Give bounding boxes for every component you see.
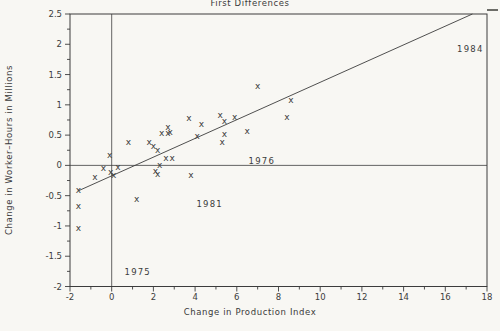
data-point-marker: x xyxy=(232,112,238,122)
x-axis-tick-label: -2 xyxy=(66,292,74,302)
y-axis-tick-label: -1 xyxy=(54,221,62,231)
data-point-marker: x xyxy=(134,194,140,204)
data-point-marker: x xyxy=(163,153,169,163)
data-point-marker: x xyxy=(107,150,113,160)
x-axis-tick-label: 18 xyxy=(482,292,493,302)
data-point-marker: x xyxy=(255,81,261,91)
chart-title: First Differences xyxy=(0,0,500,8)
year-annotation-1976: 1976 xyxy=(249,156,275,166)
regression-line xyxy=(78,14,472,191)
data-point-marker: x xyxy=(101,163,107,173)
x-axis-tick-label: 0 xyxy=(109,292,114,302)
data-point-marker: x xyxy=(155,145,161,155)
data-point-marker: x xyxy=(76,223,82,233)
scatter-plot: -2024681012141618-2-1.5-1-0.500.511.522.… xyxy=(0,0,500,331)
data-point-marker: x xyxy=(220,137,226,147)
data-point-marker: x xyxy=(199,119,205,129)
data-point-marker: x xyxy=(222,116,228,126)
x-axis-tick-label: 2 xyxy=(151,292,156,302)
chart-figure: -2024681012141618-2-1.5-1-0.500.511.522.… xyxy=(0,0,500,331)
x-axis-tick-label: 8 xyxy=(276,292,281,302)
x-axis-tick-label: 10 xyxy=(315,292,326,302)
data-point-marker: x xyxy=(170,153,176,163)
data-point-marker: x xyxy=(186,113,192,123)
scan-edge-mark xyxy=(487,9,498,11)
y-axis-tick-label: -0.5 xyxy=(45,191,62,201)
data-point-marker: x xyxy=(188,170,194,180)
data-point-marker: x xyxy=(126,137,132,147)
x-axis-label: Change in Production Index xyxy=(0,307,500,317)
y-axis-tick-label: 1 xyxy=(57,100,62,110)
x-axis-tick-label: 14 xyxy=(398,292,409,302)
data-point-marker: x xyxy=(195,131,201,141)
data-point-marker: x xyxy=(155,169,161,179)
y-axis-label: Change in Worker–Hours in Millions xyxy=(4,65,14,235)
y-axis-tick-label: 1.5 xyxy=(48,70,62,80)
data-point-marker: x xyxy=(284,112,290,122)
year-annotation-1984: 1984 xyxy=(457,44,483,54)
x-axis-tick-label: 6 xyxy=(234,292,239,302)
y-axis-tick-label: 2.5 xyxy=(48,9,62,19)
y-axis-tick-label: 2 xyxy=(57,39,62,49)
x-axis-tick-label: 16 xyxy=(440,292,451,302)
data-point-marker: x xyxy=(245,126,251,136)
data-point-marker: x xyxy=(76,185,82,195)
data-point-marker: x xyxy=(115,162,121,172)
y-axis-tick-label: -1.5 xyxy=(45,251,62,261)
y-axis-tick-label: 0.5 xyxy=(48,130,62,140)
plot-border xyxy=(70,14,487,287)
x-axis-tick-label: 4 xyxy=(192,292,197,302)
data-point-marker: x xyxy=(92,172,98,182)
year-annotation-1975: 1975 xyxy=(125,267,151,277)
data-point-marker: x xyxy=(288,95,294,105)
y-axis-tick-label: -2 xyxy=(54,282,62,292)
y-axis-tick-label: 0 xyxy=(57,160,62,170)
data-point-marker: x xyxy=(159,128,165,138)
data-point-marker: x xyxy=(167,127,173,137)
data-point-marker: x xyxy=(76,201,82,211)
x-axis-tick-label: 12 xyxy=(356,292,367,302)
year-annotation-1981: 1981 xyxy=(196,199,222,209)
